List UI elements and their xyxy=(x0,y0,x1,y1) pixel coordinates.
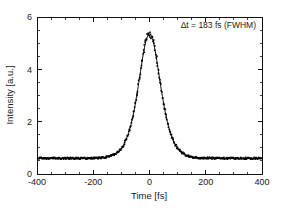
data-point xyxy=(156,55,158,57)
data-point xyxy=(156,57,158,59)
data-point xyxy=(165,117,167,119)
data-point xyxy=(172,139,174,141)
data-point xyxy=(133,115,135,117)
data-point xyxy=(141,60,143,62)
data-point xyxy=(126,138,128,140)
data-point xyxy=(245,157,247,159)
data-point xyxy=(143,44,145,46)
x-axis-tick-labels: -400-2000200400 xyxy=(28,177,270,187)
y-tick-label: 4 xyxy=(27,65,32,75)
data-point xyxy=(141,65,143,67)
data-point xyxy=(158,69,160,71)
data-point xyxy=(158,77,160,79)
data-point xyxy=(211,158,213,160)
data-point xyxy=(65,158,67,160)
x-tick-label: 200 xyxy=(198,177,213,187)
data-point xyxy=(184,153,186,155)
y-axis-minor-ticks xyxy=(37,30,262,161)
data-point xyxy=(137,91,139,93)
data-point xyxy=(136,93,138,95)
data-point xyxy=(106,157,108,159)
data-point xyxy=(144,41,146,43)
plot-frame xyxy=(37,17,262,174)
data-point xyxy=(158,73,160,75)
data-point xyxy=(136,95,138,97)
data-point xyxy=(137,83,139,85)
data-point xyxy=(146,39,148,41)
data-point xyxy=(171,134,173,136)
autocorrelation-figure: -400-2000200400 0246 Time [fs] Intensity… xyxy=(0,0,284,210)
data-point xyxy=(155,54,157,56)
data-point xyxy=(166,119,168,121)
data-point xyxy=(160,83,162,85)
data-point xyxy=(176,144,178,146)
data-point xyxy=(136,99,138,101)
x-tick-label: -200 xyxy=(84,177,102,187)
chart-canvas: -400-2000200400 0246 Time [fs] Intensity… xyxy=(0,0,284,210)
data-point xyxy=(161,91,163,93)
data-point xyxy=(179,149,181,151)
data-point xyxy=(79,158,81,160)
x-tick-label: 0 xyxy=(147,177,152,187)
data-point xyxy=(142,53,144,55)
data-point xyxy=(131,122,133,124)
data-point xyxy=(150,38,152,40)
data-point xyxy=(133,111,135,113)
data-point xyxy=(167,123,169,125)
data-points-layer xyxy=(37,32,262,161)
data-point xyxy=(188,154,190,156)
data-point xyxy=(63,158,65,160)
data-point xyxy=(140,74,142,76)
y-tick-label: 6 xyxy=(27,12,32,22)
x-axis-major-ticks xyxy=(37,17,262,174)
data-point xyxy=(159,79,161,81)
data-point xyxy=(84,157,86,159)
data-point xyxy=(169,129,171,131)
data-point xyxy=(152,36,154,38)
y-axis-major-ticks xyxy=(37,17,262,174)
data-point xyxy=(132,117,134,119)
data-point xyxy=(150,34,152,36)
data-point xyxy=(154,49,156,51)
data-point xyxy=(139,76,141,78)
data-point xyxy=(156,65,158,67)
data-point xyxy=(118,151,120,153)
data-point xyxy=(168,126,170,128)
fit-curve-layer xyxy=(37,34,262,158)
data-point xyxy=(130,125,132,127)
data-point xyxy=(261,158,263,160)
data-point xyxy=(134,106,136,108)
data-point xyxy=(162,97,164,99)
data-point xyxy=(135,102,137,104)
data-point xyxy=(153,42,155,44)
data-point xyxy=(139,78,141,80)
data-point xyxy=(165,114,167,116)
data-point xyxy=(153,39,155,41)
data-point xyxy=(143,51,145,53)
data-point xyxy=(180,151,182,153)
x-tick-label: 400 xyxy=(254,177,269,187)
data-point xyxy=(131,119,133,121)
data-point xyxy=(148,32,150,34)
x-axis-title: Time [fs] xyxy=(131,190,167,201)
y-tick-label: 2 xyxy=(27,117,32,127)
x-axis-minor-ticks xyxy=(51,17,248,174)
data-point xyxy=(173,142,175,144)
data-point xyxy=(156,62,158,64)
data-point xyxy=(140,67,142,69)
data-point xyxy=(165,108,167,110)
y-tick-label: 0 xyxy=(27,169,32,179)
data-point xyxy=(149,32,151,34)
data-point xyxy=(169,131,171,133)
data-point xyxy=(154,45,156,47)
data-point xyxy=(124,142,126,144)
data-point xyxy=(128,134,130,136)
data-point xyxy=(129,129,131,131)
data-point xyxy=(123,145,125,147)
data-point xyxy=(163,104,165,106)
fwhm-annotation: Δt = 183 fs (FWHM) xyxy=(181,20,257,30)
data-point xyxy=(143,49,145,51)
data-point xyxy=(226,157,228,159)
data-point xyxy=(76,158,78,160)
data-point xyxy=(177,147,179,149)
